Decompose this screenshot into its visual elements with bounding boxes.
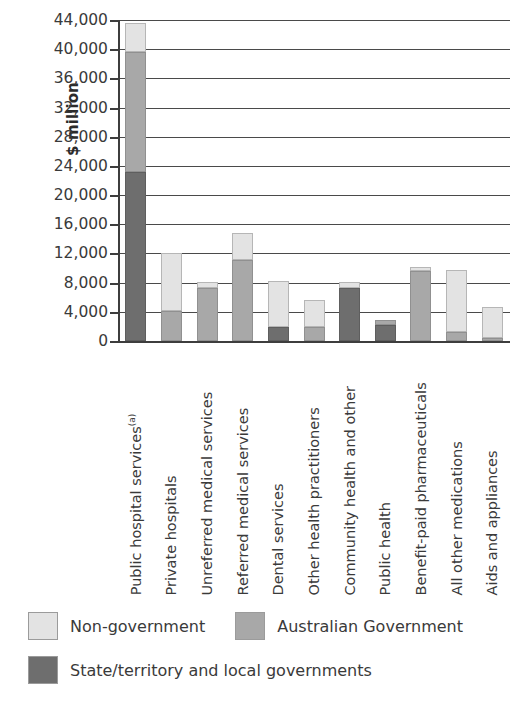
bar xyxy=(125,23,146,341)
y-axis-tick-label: 36,000 xyxy=(4,69,108,87)
gridline xyxy=(118,137,510,138)
legend-label: State/territory and local governments xyxy=(70,661,372,680)
plot-area xyxy=(118,20,510,341)
legend-item[interactable]: Australian Government xyxy=(235,612,463,640)
gridline xyxy=(118,78,510,79)
legend-swatch-icon xyxy=(235,612,265,640)
y-axis-tick-labels: 44,00040,00036,00032,00028,00024,00020,0… xyxy=(0,0,108,360)
y-axis-line xyxy=(118,20,120,342)
x-axis-tick-label: Referred medical services xyxy=(235,407,250,595)
gridline xyxy=(118,166,510,167)
x-axis-line xyxy=(110,341,510,343)
legend-item[interactable]: Non-government xyxy=(28,612,205,640)
legend-label: Non-government xyxy=(70,617,205,636)
stacked-bar-chart: $ million 44,00040,00036,00032,00028,000… xyxy=(0,0,527,714)
bar-segment xyxy=(304,300,325,327)
x-axis-tick-label: Public hospital services(a) xyxy=(128,413,143,595)
y-axis-tick-mark xyxy=(110,108,119,110)
bar-segment xyxy=(232,233,253,260)
bar xyxy=(446,270,467,341)
bar-segment xyxy=(161,311,182,341)
y-axis-tick-label: 16,000 xyxy=(4,215,108,233)
bar-segment xyxy=(268,281,289,327)
bar-segment xyxy=(482,307,503,338)
legend-swatch-icon xyxy=(28,612,58,640)
y-axis-tick-mark xyxy=(110,49,119,51)
bar-segment xyxy=(410,267,431,271)
y-axis-tick-label: 32,000 xyxy=(4,99,108,117)
y-axis-tick-mark xyxy=(110,283,119,285)
bar xyxy=(304,300,325,341)
bar xyxy=(339,282,360,341)
bar xyxy=(232,233,253,341)
x-axis-label-slot: Community health and other xyxy=(342,345,358,595)
x-axis-tick-label: Dental services xyxy=(271,483,286,595)
bar xyxy=(410,267,431,341)
bar-segment xyxy=(375,325,396,341)
y-axis-tick-label: 44,000 xyxy=(4,11,108,29)
bar xyxy=(482,307,503,341)
bar-segment xyxy=(446,332,467,341)
bar xyxy=(161,253,182,341)
y-axis-tick-label: 12,000 xyxy=(4,244,108,262)
x-axis-label-slot: Benefit-paid pharmaceuticals xyxy=(413,345,429,595)
x-axis-label-slot: Aids and appliances xyxy=(484,345,500,595)
x-axis-tick-label: Other health practitioners xyxy=(307,407,322,595)
x-axis-label-slot: Unreferred medical services xyxy=(199,345,215,595)
x-axis-tick-label: Aids and appliances xyxy=(485,450,500,595)
bar xyxy=(268,281,289,341)
legend-swatch-icon xyxy=(28,656,58,684)
y-axis-tick-mark xyxy=(110,166,119,168)
x-axis-tick-label: Community health and other xyxy=(342,385,357,595)
x-axis-label-slot: Dental services xyxy=(270,345,286,595)
y-axis-tick-mark xyxy=(110,341,119,343)
legend-row: State/territory and local governments xyxy=(28,656,372,684)
gridline xyxy=(118,20,510,21)
x-axis-label-slot: Public hospital services(a) xyxy=(128,345,144,595)
gridline xyxy=(118,49,510,50)
x-axis-label-slot: Referred medical services xyxy=(235,345,251,595)
bar-segment xyxy=(304,327,325,341)
y-axis-tick-label: 8,000 xyxy=(4,274,108,292)
bar-segment xyxy=(197,282,218,288)
y-axis-tick-mark xyxy=(110,20,119,22)
x-axis-label-slot: Public health xyxy=(377,345,393,595)
bar-segment xyxy=(161,253,182,311)
legend-item[interactable]: State/territory and local governments xyxy=(28,656,372,684)
bar-segment xyxy=(197,288,218,341)
y-axis-tick-mark xyxy=(110,312,119,314)
gridline xyxy=(118,195,510,196)
legend-row: Non-governmentAustralian Government xyxy=(28,612,463,640)
bar xyxy=(197,282,218,341)
legend-label: Australian Government xyxy=(277,617,463,636)
y-axis-tick-mark xyxy=(110,78,119,80)
bar xyxy=(375,320,396,341)
x-axis-tick-label: All other medications xyxy=(449,441,464,595)
x-axis-label-slot: Other health practitioners xyxy=(306,345,322,595)
x-axis-tick-labels: Public hospital services(a)Private hospi… xyxy=(118,345,510,600)
bar-segment xyxy=(125,52,146,172)
y-axis-tick-label: 20,000 xyxy=(4,186,108,204)
bar-segment xyxy=(232,260,253,341)
x-axis-tick-label: Unreferred medical services xyxy=(200,391,215,595)
y-axis-tick-mark xyxy=(110,253,119,255)
footnote-marker: (a) xyxy=(127,413,137,426)
gridline xyxy=(118,108,510,109)
gridline xyxy=(118,224,510,225)
bar-segment xyxy=(339,282,360,288)
y-axis-tick-mark xyxy=(110,224,119,226)
x-axis-tick-label: Private hospitals xyxy=(164,475,179,595)
bar-segment xyxy=(268,327,289,341)
x-axis-label-slot: All other medications xyxy=(449,345,465,595)
bar-segment xyxy=(339,288,360,341)
y-axis-tick-mark xyxy=(110,137,119,139)
y-axis-tick-mark xyxy=(110,195,119,197)
y-axis-tick-label: 24,000 xyxy=(4,157,108,175)
y-axis-tick-label: 28,000 xyxy=(4,128,108,146)
bar-segment xyxy=(125,172,146,341)
y-axis-tick-label: 0 xyxy=(4,332,108,350)
y-axis-tick-label: 4,000 xyxy=(4,303,108,321)
x-axis-label-slot: Private hospitals xyxy=(163,345,179,595)
y-axis-tick-label: 40,000 xyxy=(4,40,108,58)
bar-segment xyxy=(375,320,396,325)
